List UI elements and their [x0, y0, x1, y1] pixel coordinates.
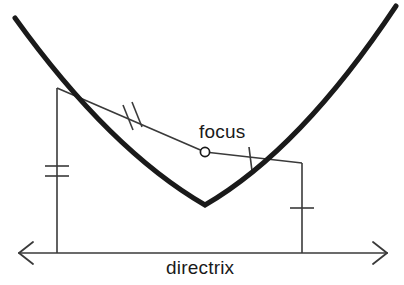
- left-perpendicular-group: [45, 88, 69, 253]
- right-focal-radius-segment: [205, 152, 302, 163]
- right-focal-radius-group: [205, 147, 302, 171]
- focus-point-marker: [200, 147, 209, 156]
- focus-label: focus: [199, 121, 245, 143]
- right-focal-radius-tick-1: [249, 147, 252, 171]
- right-perpendicular-group: [290, 163, 314, 253]
- parabola-curve: [15, 6, 396, 205]
- directrix-label: directrix: [166, 257, 234, 279]
- diagram-canvas: focus directrix: [0, 0, 404, 285]
